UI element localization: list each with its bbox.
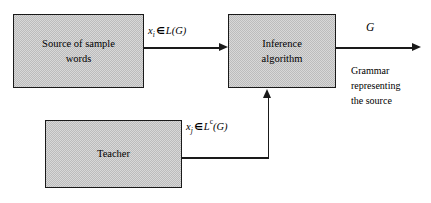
label-output-caption: Grammar representing the source [351,63,400,108]
label-negative-samples: xj∈Lc(G) [186,117,228,136]
arrowhead-up-icon [263,89,271,98]
label-output-grammar-symbol: G [366,20,374,36]
connector-teacher-vertical [268,97,270,158]
block-teacher: Teacher [45,120,182,188]
block-diagram: Source of sample words Inference algorit… [0,0,431,203]
block-source-line-2: words [66,51,92,66]
label-positive-set: L(G) [166,25,186,36]
arrowhead-right-icon [219,43,228,51]
label-output-caption-line-2: representing [351,78,400,93]
label-output-caption-line-1: Grammar [351,63,400,78]
label-output-caption-line-3: the source [351,93,400,108]
label-negative-variable: x [186,121,191,132]
block-source-line-1: Source of sample [42,36,115,51]
block-teacher-line-1: Teacher [97,146,130,161]
block-inference-line-1: Inference [262,36,302,51]
label-positive-samples: xi∈L(G) [148,24,186,41]
connector-source-to-inference [144,47,220,49]
connector-inference-output [336,47,413,49]
label-negative-set-suffix: (G) [213,121,228,132]
block-inference-line-2: algorithm [262,51,303,66]
block-source-of-sample-words: Source of sample words [13,14,144,88]
label-positive-variable: x [148,25,153,36]
connector-teacher-horizontal [182,157,269,159]
block-inference-algorithm: Inference algorithm [228,14,336,88]
label-negative-operator: ∈ [193,121,204,132]
arrowhead-right-icon [412,43,421,51]
label-positive-operator: ∈ [155,25,166,36]
